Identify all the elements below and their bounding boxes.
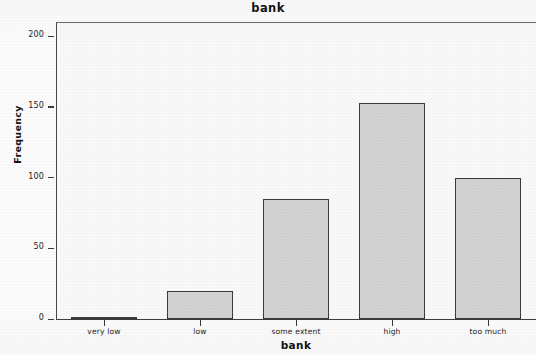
bar-very-low xyxy=(71,317,136,319)
x-tick-mark xyxy=(104,320,105,326)
x-tick-mark xyxy=(488,320,489,326)
y-tick-label: 100 xyxy=(0,172,44,181)
y-tick-label: 150 xyxy=(0,101,44,110)
bar-high xyxy=(359,103,424,319)
x-tick-mark xyxy=(392,320,393,326)
bar-too-much xyxy=(455,178,520,319)
x-tick-label: very low xyxy=(87,327,120,336)
y-tick-mark xyxy=(48,36,54,37)
y-tick-label: 50 xyxy=(0,242,44,251)
x-axis-title: bank xyxy=(56,339,536,351)
y-tick-mark xyxy=(48,319,54,320)
chart-title: bank xyxy=(0,1,536,15)
y-tick-label: 200 xyxy=(0,30,44,39)
x-tick-label: too much xyxy=(469,327,506,336)
x-tick-label: some extent xyxy=(271,327,320,336)
x-tick-label: high xyxy=(383,327,400,336)
bar-some-extent xyxy=(263,199,328,319)
x-tick-mark xyxy=(296,320,297,326)
bar-low xyxy=(167,291,232,319)
bars-layer xyxy=(56,22,536,320)
y-tick-mark xyxy=(48,106,54,107)
y-tick-label: 0 xyxy=(0,313,44,322)
x-tick-label: low xyxy=(193,327,206,336)
y-tick-mark xyxy=(48,177,54,178)
y-tick-mark xyxy=(48,248,54,249)
x-tick-mark xyxy=(200,320,201,326)
frequency-bar-chart: bank Frequency 050100150200 very lowlows… xyxy=(0,0,536,354)
